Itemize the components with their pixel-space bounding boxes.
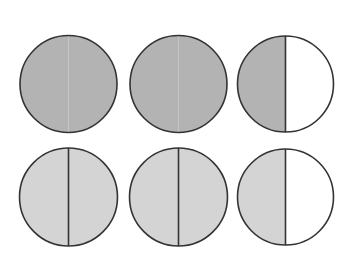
right-half <box>179 36 227 133</box>
left-half <box>238 36 286 132</box>
left-half <box>238 149 286 245</box>
fraction-circle <box>130 36 227 133</box>
right-half <box>286 149 334 245</box>
right-half <box>179 148 228 246</box>
right-half <box>286 36 334 132</box>
fraction-circle <box>238 36 334 132</box>
fraction-circle <box>19 148 117 246</box>
fraction-circle <box>130 148 228 246</box>
diagram-svg <box>0 0 356 280</box>
left-half <box>19 148 68 246</box>
top-row <box>20 36 334 133</box>
fraction-circles-diagram <box>0 0 356 280</box>
left-half <box>130 36 178 133</box>
right-half <box>69 36 117 133</box>
left-half <box>130 148 179 246</box>
fraction-circle <box>238 149 334 245</box>
bottom-row <box>19 148 333 246</box>
left-half <box>20 36 68 133</box>
right-half <box>69 148 118 246</box>
fraction-circle <box>20 36 117 133</box>
